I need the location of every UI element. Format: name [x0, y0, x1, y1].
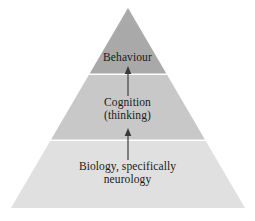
pyramid-diagram: Behaviour Cognition (thinking) Biology, … — [0, 0, 255, 221]
pyramid-graphic — [0, 0, 255, 221]
pyramid-tier-behaviour — [90, 8, 167, 73]
